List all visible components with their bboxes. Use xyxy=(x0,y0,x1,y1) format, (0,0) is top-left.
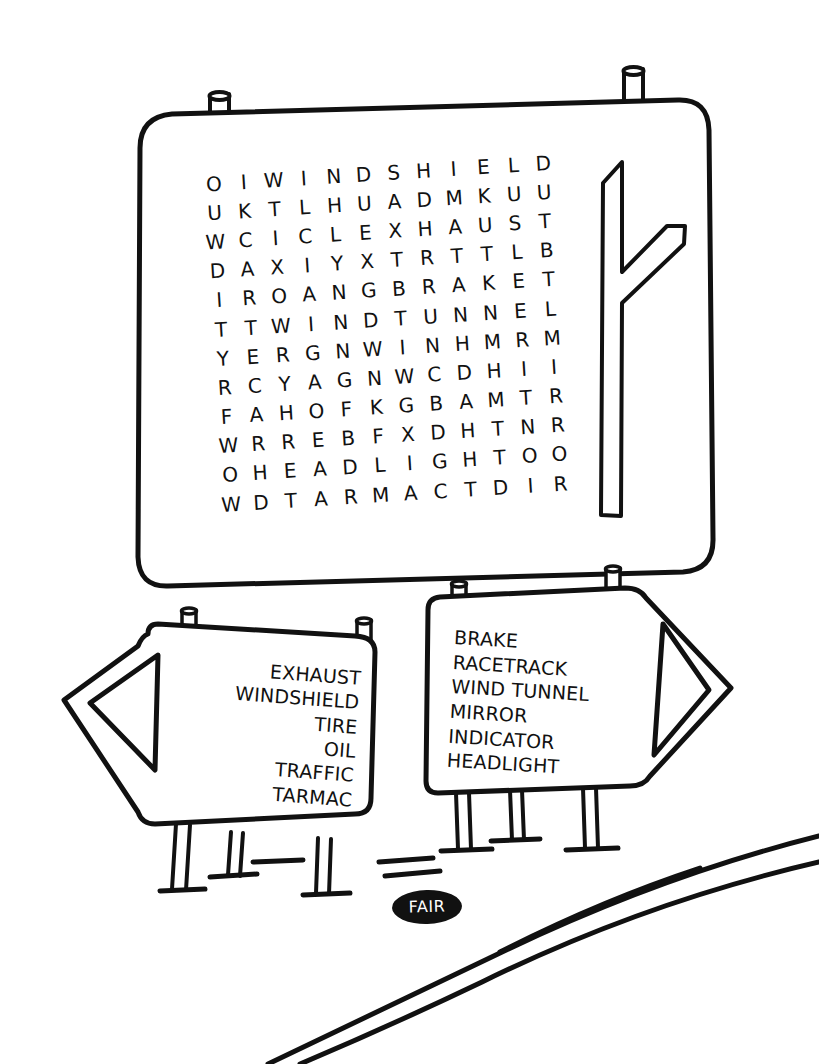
grid-cell: R xyxy=(545,472,576,494)
grid-cell: H xyxy=(447,332,478,354)
grid-cell: R xyxy=(540,385,571,407)
grid-cell: O xyxy=(215,464,246,486)
fair-badge-label: FAIR xyxy=(409,899,446,916)
grid-cell: G xyxy=(297,342,328,364)
grid-cell: M xyxy=(439,187,470,209)
grid-cell: O xyxy=(544,443,575,465)
grid-cell: W xyxy=(357,338,388,360)
grid-cell: I xyxy=(204,289,235,311)
grid-cell: E xyxy=(237,346,268,368)
grid-cell: L xyxy=(501,241,532,263)
grid-cell: R xyxy=(234,287,265,309)
grid-cell: A xyxy=(304,458,335,480)
grid-cell: T xyxy=(529,210,560,232)
grid-cell: N xyxy=(475,301,506,323)
grid-cell: Y xyxy=(322,253,353,275)
grid-cell: I xyxy=(387,336,418,358)
grid-cell: R xyxy=(273,431,304,453)
grid-cell: I xyxy=(394,453,425,475)
grid-cell: G xyxy=(353,280,384,302)
word-search-grid: O I W I N D S H I E L D U K T L H U A D … xyxy=(196,147,578,529)
grid-cell: E xyxy=(503,270,534,292)
left-sign-legs xyxy=(172,824,331,894)
grid-cell: N xyxy=(445,303,476,325)
grid-cell: B xyxy=(333,427,364,449)
grid-cell: R xyxy=(413,276,444,298)
grid-cell: B xyxy=(383,278,414,300)
grid-cell: T xyxy=(275,489,306,511)
grid-cell: U xyxy=(349,192,380,214)
grid-cell: R xyxy=(209,377,240,399)
grid-cell: A xyxy=(450,391,481,413)
grid-cell: H xyxy=(245,462,276,484)
grid-cell: A xyxy=(379,190,410,212)
grid-cell: N xyxy=(359,367,390,389)
grid-cell: K xyxy=(229,200,260,222)
grid-cell: R xyxy=(507,329,538,351)
grid-cell: H xyxy=(410,218,441,240)
grid-cell: Y xyxy=(207,347,238,369)
grid-cell: A xyxy=(443,274,474,296)
grid-cell: I xyxy=(260,227,291,249)
grid-cell: U xyxy=(199,202,230,224)
grid-cell: D xyxy=(202,260,233,282)
grid-cell: G xyxy=(424,451,455,473)
grid-cell: W xyxy=(213,435,244,457)
grid-cell: B xyxy=(421,393,452,415)
grid-cell: M xyxy=(365,484,396,506)
right-sign-ground-marks xyxy=(379,839,618,876)
grid-cell: T xyxy=(381,249,412,271)
grid-cell: C xyxy=(230,229,261,251)
grid-cell: Y xyxy=(269,373,300,395)
grid-cell: D xyxy=(334,456,365,478)
grid-cell: L xyxy=(289,196,320,218)
grid-cell: C xyxy=(239,375,270,397)
grid-cell: N xyxy=(327,340,358,362)
grid-cell: A xyxy=(232,258,263,280)
grid-cell: F xyxy=(362,425,393,447)
grid-cell: O xyxy=(264,285,295,307)
grid-cell: M xyxy=(477,331,508,353)
grid-cell: W xyxy=(200,231,231,253)
grid-cell: O xyxy=(198,173,229,195)
grid-cell: T xyxy=(205,318,236,340)
grid-cell: U xyxy=(499,183,530,205)
grid-cell: I xyxy=(292,254,323,276)
grid-cell: A xyxy=(299,371,330,393)
grid-cell: K xyxy=(361,396,392,418)
grid-cell: U xyxy=(528,181,559,203)
grid-cell: T xyxy=(471,243,502,265)
grid-cell: N xyxy=(512,416,543,438)
grid-cell: E xyxy=(350,222,381,244)
grid-cell: I xyxy=(288,167,319,189)
grid-cell: X xyxy=(380,220,411,242)
grid-cell: M xyxy=(537,327,568,349)
grid-cell: G xyxy=(329,369,360,391)
grid-cell: E xyxy=(303,429,334,451)
grid-cell: R xyxy=(542,414,573,436)
grid-cell: U xyxy=(415,305,446,327)
right-sign-word-list: BRAKE RACETRACK WIND TUNNEL MIRROR INDIC… xyxy=(446,625,634,784)
grid-cell: N xyxy=(417,334,448,356)
grid-cell: D xyxy=(422,422,453,444)
grid-cell: H xyxy=(408,159,439,181)
grid-cell: D xyxy=(528,152,559,174)
grid-cell: K xyxy=(469,185,500,207)
grid-cell: D xyxy=(355,309,386,331)
grid-cell: T xyxy=(441,245,472,267)
grid-cell: W xyxy=(258,169,289,191)
grid-cell: A xyxy=(395,482,426,504)
grid-cell: I xyxy=(438,158,469,180)
grid-cell: N xyxy=(325,311,356,333)
grid-cell: D xyxy=(485,476,516,498)
grid-cell: W xyxy=(389,365,420,387)
road-lines xyxy=(268,836,819,1064)
grid-cell: S xyxy=(378,161,409,183)
grid-cell: W xyxy=(265,315,296,337)
grid-cell: D xyxy=(409,189,440,211)
grid-cell: R xyxy=(243,433,274,455)
grid-cell: T xyxy=(235,316,266,338)
grid-cell: O xyxy=(514,445,545,467)
grid-cell: E xyxy=(505,300,536,322)
grid-cell: F xyxy=(331,398,362,420)
